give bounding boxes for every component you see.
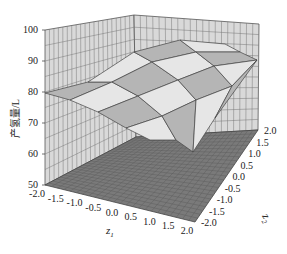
svg-text:0.0: 0.0 bbox=[233, 171, 246, 182]
svg-text:90: 90 bbox=[28, 55, 38, 66]
svg-text:80: 80 bbox=[28, 86, 38, 97]
svg-text:1.5: 1.5 bbox=[162, 220, 175, 231]
surface-plot: 5060708090100 -2.0-1.5-1.0-0.50.00.51.01… bbox=[0, 0, 287, 254]
svg-text:1.0: 1.0 bbox=[248, 148, 261, 159]
svg-text:-1.0: -1.0 bbox=[217, 194, 233, 205]
svg-text:-0.5: -0.5 bbox=[85, 202, 101, 213]
svg-text:0.5: 0.5 bbox=[240, 160, 253, 171]
svg-text:-1.5: -1.5 bbox=[48, 193, 64, 204]
svg-text:1.0: 1.0 bbox=[143, 216, 156, 227]
svg-text:0.5: 0.5 bbox=[125, 211, 138, 222]
z-axis-label: 产氢量/L bbox=[9, 99, 21, 138]
svg-text:100: 100 bbox=[23, 24, 38, 35]
svg-text:2.0: 2.0 bbox=[181, 225, 194, 236]
z-axis-ticks: 5060708090100 bbox=[23, 24, 45, 190]
y-axis-label: z2 bbox=[257, 210, 275, 226]
svg-text:-2.0: -2.0 bbox=[201, 217, 217, 228]
svg-text:-0.5: -0.5 bbox=[225, 183, 241, 194]
svg-text:-2.0: -2.0 bbox=[29, 188, 45, 199]
svg-text:1.5: 1.5 bbox=[256, 137, 269, 148]
svg-text:60: 60 bbox=[28, 148, 38, 159]
svg-text:-1.0: -1.0 bbox=[67, 197, 83, 208]
svg-text:0.0: 0.0 bbox=[106, 207, 119, 218]
x-axis-label: z1 bbox=[105, 224, 114, 239]
svg-text:2.0: 2.0 bbox=[264, 125, 277, 136]
svg-text:-1.5: -1.5 bbox=[209, 206, 225, 217]
svg-text:70: 70 bbox=[28, 117, 38, 128]
